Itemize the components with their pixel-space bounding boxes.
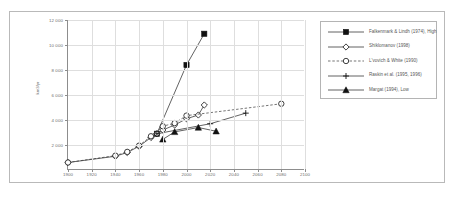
legend-label: Raskin et al. (1995, 1996) bbox=[369, 72, 422, 77]
x-tick-label: 2080 bbox=[276, 172, 286, 177]
legend-label: L'vovich & White (1990) bbox=[369, 58, 418, 63]
y-tick bbox=[65, 95, 68, 96]
y-tick bbox=[65, 45, 68, 46]
data-point-marker bbox=[125, 149, 130, 154]
series-line bbox=[157, 34, 204, 134]
legend-item-2[interactable]: L'vovich & White (1990) bbox=[325, 54, 435, 68]
legend-item-4[interactable]: Margat (1994), Low bbox=[325, 83, 435, 97]
data-point-marker bbox=[243, 110, 249, 116]
chart-legend: Falkenmark & Lindh (1974), HighShikloman… bbox=[320, 21, 437, 99]
y-gridline bbox=[68, 145, 304, 146]
data-point-marker bbox=[343, 29, 348, 34]
x-tick-label: 1900 bbox=[63, 172, 73, 177]
y-tick-label: 4 000 bbox=[52, 118, 64, 123]
y-tick-label: 8 000 bbox=[52, 68, 64, 73]
data-point-marker bbox=[195, 112, 201, 118]
x-tick-label: 1920 bbox=[87, 172, 97, 177]
y-tick-label: 10 000 bbox=[49, 43, 63, 48]
y-gridline bbox=[68, 70, 304, 71]
legend-swatch bbox=[325, 69, 367, 83]
legend-label: Shiklomanov (1998) bbox=[369, 43, 410, 48]
x-tick-label: 2040 bbox=[229, 172, 239, 177]
legend-label: Falkenmark & Lindh (1974), High bbox=[369, 29, 437, 34]
y-tick bbox=[65, 20, 68, 21]
legend-item-1[interactable]: Shiklomanov (1998) bbox=[325, 40, 435, 54]
y-tick bbox=[65, 70, 68, 71]
data-point-marker bbox=[172, 120, 177, 125]
chart-frame: km3/yr 190019201940196019802000202020402… bbox=[9, 11, 445, 183]
legend-item-0[interactable]: Falkenmark & Lindh (1974), High bbox=[325, 25, 435, 39]
y-tick-label: 2 000 bbox=[52, 143, 64, 148]
y-tick bbox=[65, 120, 68, 121]
y-tick-label: 12 000 bbox=[49, 18, 63, 23]
data-point-marker bbox=[148, 134, 153, 139]
legend-swatch bbox=[325, 40, 367, 54]
y-gridline bbox=[68, 95, 304, 96]
data-point-marker bbox=[201, 102, 207, 108]
series-line bbox=[163, 128, 216, 140]
legend-swatch bbox=[325, 83, 367, 97]
x-tick-label: 2020 bbox=[205, 172, 215, 177]
data-point-marker bbox=[343, 73, 349, 79]
x-tick-label: 1940 bbox=[110, 172, 120, 177]
data-point-marker bbox=[202, 31, 207, 36]
bottom-caption bbox=[24, 192, 444, 204]
x-tick-label: 2060 bbox=[253, 172, 263, 177]
legend-label: Margat (1994), Low bbox=[369, 87, 409, 92]
legend-swatch bbox=[325, 54, 367, 68]
plot-area: 1900192019401960198020002020204020602080… bbox=[67, 20, 304, 170]
legend-item-3[interactable]: Raskin et al. (1995, 1996) bbox=[325, 69, 435, 83]
legend-swatch bbox=[325, 25, 367, 39]
y-gridline bbox=[68, 20, 304, 21]
y-gridline bbox=[68, 45, 304, 46]
data-point-marker bbox=[343, 43, 349, 49]
y-axis-title: km3/yr bbox=[35, 82, 40, 95]
series-line bbox=[68, 105, 204, 163]
data-point-marker bbox=[65, 160, 70, 165]
series-line bbox=[157, 113, 246, 134]
y-tick-label: 6 000 bbox=[52, 93, 64, 98]
x-tick-label: 1960 bbox=[134, 172, 144, 177]
data-point-marker bbox=[343, 58, 348, 63]
x-tick-label: 2000 bbox=[181, 172, 191, 177]
y-gridline bbox=[68, 120, 304, 121]
x-tick-label: 1980 bbox=[158, 172, 168, 177]
x-tick-label: 2100 bbox=[300, 172, 310, 177]
y-tick bbox=[65, 145, 68, 146]
x-gridline bbox=[305, 20, 306, 169]
